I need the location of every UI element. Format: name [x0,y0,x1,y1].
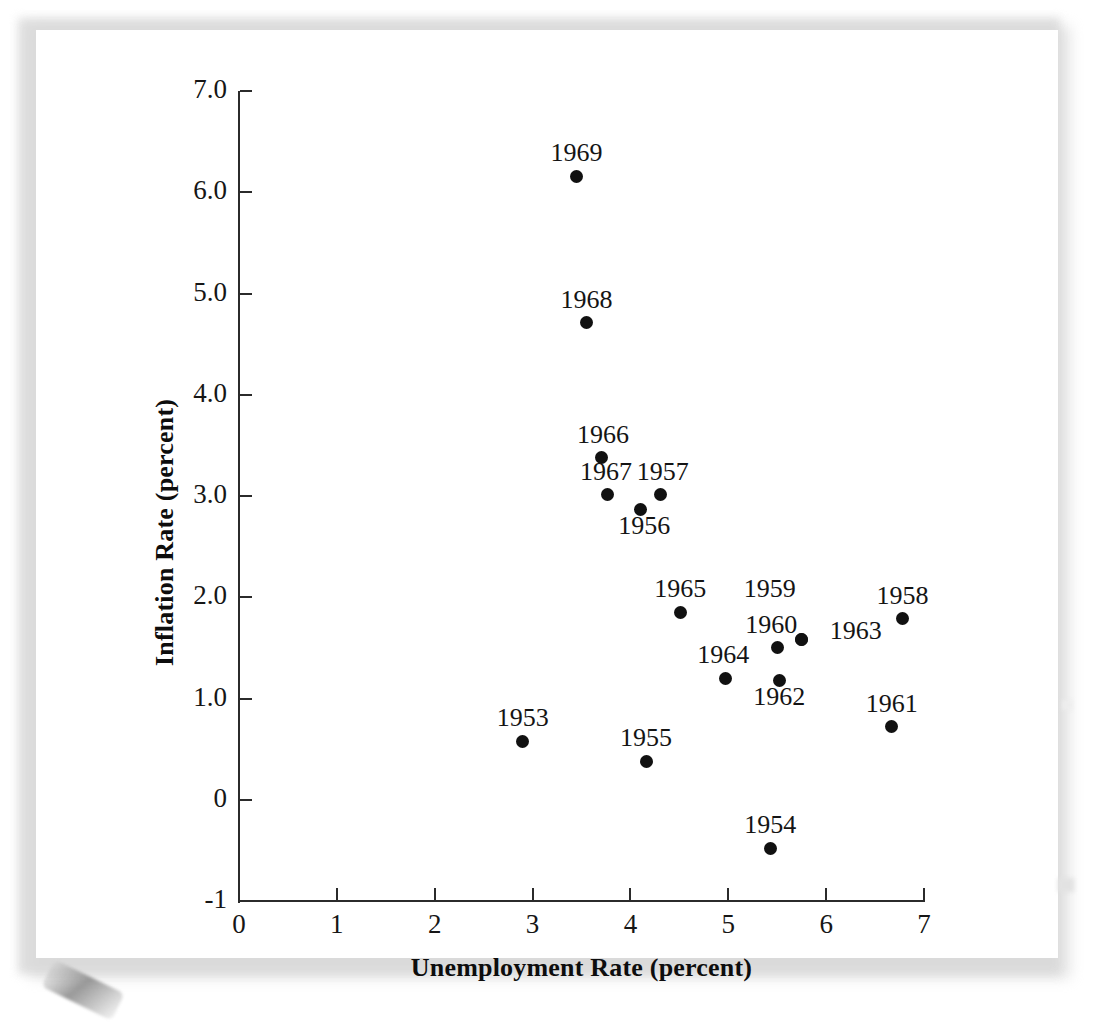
data-point[interactable] [601,488,614,501]
x-axis-tick [727,888,729,900]
x-axis-tick [336,888,338,900]
data-point-label: 1957 [637,457,689,487]
y-axis-tick [240,596,252,598]
x-axis-tick-label: 3 [503,909,563,940]
data-point-label: 1965 [654,574,706,604]
data-point-label: 1963 [830,616,882,646]
data-point-label: 1962 [753,682,805,712]
x-axis-tick-label: 4 [600,909,660,940]
y-axis-tick [240,90,252,92]
y-axis-tick [240,394,252,396]
y-axis-tick-label: 7.0 [143,74,227,105]
x-axis-tick [532,888,534,900]
y-axis-tick [240,799,252,801]
x-axis-line [239,900,925,902]
data-point-label: 1969 [551,138,603,168]
y-axis-tick [240,191,252,193]
y-axis-title: Inflation Rate (percent) [150,399,180,666]
data-point-label: 1959 [744,574,796,604]
x-axis-tick-label: 7 [894,909,954,940]
y-axis-tick-label: 3.0 [143,479,227,510]
x-axis-tick-label: 6 [796,909,856,940]
scanned-page: Inflation Rate (percent) Unemployment Ra… [0,0,1108,1036]
data-point[interactable] [516,735,529,748]
data-point[interactable] [771,641,784,654]
data-point[interactable] [580,316,593,329]
data-point-label: 1961 [866,689,918,719]
data-point[interactable] [795,633,808,646]
data-point-label: 1954 [744,810,796,840]
x-axis-tick-label: 2 [405,909,465,940]
data-point-label: 1966 [577,420,629,450]
phillips-curve-scatter-chart: Inflation Rate (percent) Unemployment Ra… [0,0,1108,1036]
data-point[interactable] [570,170,583,183]
y-axis-tick [240,293,252,295]
data-point-label: 1958 [876,581,928,611]
y-axis-tick-label: 2.0 [143,580,227,611]
data-point[interactable] [885,720,898,733]
x-axis-tick [923,888,925,900]
y-axis-tick-label: 5.0 [143,277,227,308]
data-point[interactable] [640,755,653,768]
y-axis-tick [240,900,252,902]
x-axis-tick [238,888,240,900]
data-point[interactable] [654,488,667,501]
data-point[interactable] [674,606,687,619]
x-axis-title: Unemployment Rate (percent) [232,953,932,983]
y-axis-tick-label: 4.0 [143,378,227,409]
data-point-label: 1964 [697,640,749,670]
x-axis-tick [434,888,436,900]
data-point[interactable] [896,612,909,625]
data-point-label: 1953 [497,703,549,733]
y-axis-tick [240,495,252,497]
x-axis-tick-label: 0 [209,909,269,940]
data-point-label: 1967 [580,457,632,487]
data-point[interactable] [719,672,732,685]
y-axis-tick-label: 1.0 [143,682,227,713]
data-point-label: 1955 [620,723,672,753]
y-axis-tick [240,698,252,700]
data-point-label: 1956 [618,511,670,541]
x-axis-tick [825,888,827,900]
y-axis-line [238,91,240,903]
data-point[interactable] [764,842,777,855]
data-point-label: 1960 [745,610,797,640]
y-axis-tick-label: 6.0 [143,175,227,206]
x-axis-tick [629,888,631,900]
y-axis-tick-label: 0 [143,783,227,814]
data-point-label: 1968 [560,285,612,315]
x-axis-tick-label: 1 [307,909,367,940]
x-axis-tick-label: 5 [698,909,758,940]
